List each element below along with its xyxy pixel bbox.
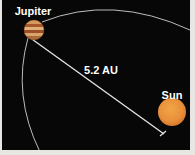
distance-line [29,37,164,134]
sun-label: Sun [162,89,183,101]
distance-label: 5.2 AU [84,64,118,76]
diagram-panel: Jupiter Sun 5.2 AU [2,0,190,150]
sun-icon [158,98,186,126]
jupiter-orbit-arc [42,10,190,30]
jupiter-icon [22,20,46,41]
jupiter-label: Jupiter [15,5,52,17]
jupiter-orbit-arc-lower [22,38,40,150]
